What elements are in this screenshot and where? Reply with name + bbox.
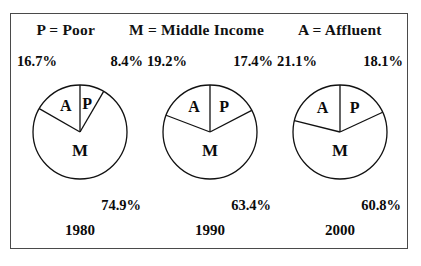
legend: P = Poor M = Middle Income A = Affluent <box>10 13 408 47</box>
pie-chart-1990: 19.2%17.4%63.4%PAM <box>145 47 275 222</box>
pie-2000-label-a: A <box>317 99 329 116</box>
pie-2000-affluent-percent: 21.1% <box>277 53 317 70</box>
pie-1980-label-a: A <box>60 97 72 114</box>
pie-1980-poor-percent: 8.4% <box>110 53 143 70</box>
pie-1990-poor-percent: 17.4% <box>233 53 273 70</box>
pie-1980-affluent-percent: 16.7% <box>17 53 57 70</box>
year-label-2000: 2000 <box>275 222 405 239</box>
pie-chart-2000: 21.1%18.1%60.8%PAM <box>275 47 405 222</box>
legend-entry-middle-income: M = Middle Income <box>129 21 264 39</box>
pie-1990-affluent-percent: 19.2% <box>147 53 187 70</box>
legend-entry-poor: P = Poor <box>36 21 95 39</box>
pie-1980-label-m: M <box>72 141 88 160</box>
pie-1990-label-p: P <box>219 98 229 115</box>
pie-1990-label-a: A <box>188 98 200 115</box>
pie-1980-graphic: PAM <box>30 82 130 182</box>
legend-entry-affluent: A = Affluent <box>298 21 382 39</box>
pie-2000-middle-percent: 60.8% <box>361 197 401 214</box>
pie-1980-middle-percent: 74.9% <box>101 197 141 214</box>
pie-1990-label-m: M <box>202 141 218 160</box>
year-label-1980: 1980 <box>15 222 145 239</box>
pie-1980-label-p: P <box>82 95 92 112</box>
pie-1990-middle-percent: 63.4% <box>231 197 271 214</box>
pie-2000-poor-percent: 18.1% <box>363 53 403 70</box>
year-axis: 1980 1990 2000 <box>10 222 408 249</box>
pie-1990-graphic: PAM <box>160 82 260 182</box>
pie-chart-1980: 16.7%8.4%74.9%PAM <box>15 47 145 222</box>
pie-chart-row: 16.7%8.4%74.9%PAM19.2%17.4%63.4%PAM21.1%… <box>10 47 408 222</box>
year-label-1990: 1990 <box>145 222 275 239</box>
pie-2000-label-p: P <box>350 99 360 116</box>
pie-2000-graphic: PAM <box>290 82 390 182</box>
pie-2000-label-m: M <box>332 141 348 160</box>
